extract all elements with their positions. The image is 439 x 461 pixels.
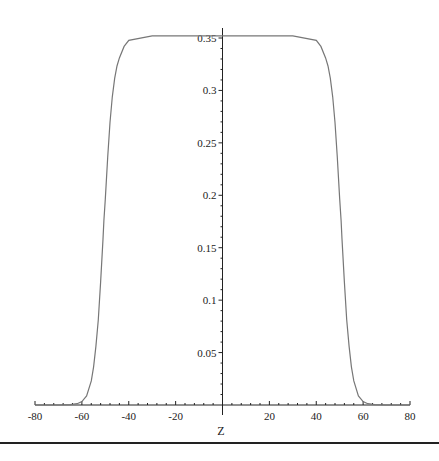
y-tick-label: 0.3 xyxy=(203,84,217,96)
x-tick-label: 80 xyxy=(405,410,417,422)
y-tick-label: 0.25 xyxy=(197,137,217,149)
x-tick-label: -80 xyxy=(28,410,43,422)
x-tick-label: 60 xyxy=(358,410,370,422)
axes xyxy=(35,28,410,415)
x-tick-label: 20 xyxy=(264,410,276,422)
x-tick-label: 40 xyxy=(311,410,323,422)
y-tick-label: 0.05 xyxy=(197,347,217,359)
y-tick-label: 0.35 xyxy=(197,32,217,44)
y-tick-label: 0.1 xyxy=(203,294,217,306)
x-tick-label: -60 xyxy=(75,410,90,422)
y-tick-label: 0.2 xyxy=(203,189,217,201)
x-axis-label: Z xyxy=(217,424,224,438)
chart: -80-60-40-20204060800.050.10.150.20.250.… xyxy=(0,0,439,461)
divider-line xyxy=(0,442,439,444)
y-tick-label: 0.15 xyxy=(197,242,217,254)
x-tick-label: -40 xyxy=(121,410,136,422)
x-tick-label: -20 xyxy=(168,410,183,422)
